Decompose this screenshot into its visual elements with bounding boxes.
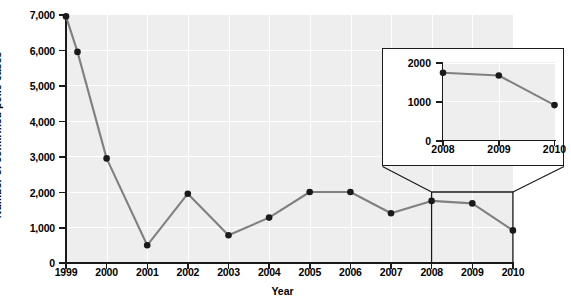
x-tick-label-2000: 2000 (85, 266, 129, 278)
gridline-y-1000 (66, 227, 513, 228)
y-tick-label-6000: 6,000 (9, 45, 55, 57)
gridline-y-7000 (66, 14, 513, 15)
gridline-x-2000 (107, 14, 108, 263)
inset-x-tick-label-2010: 2010 (535, 143, 571, 155)
y-tick-mark-1000 (59, 227, 66, 229)
y-tick-label-1000: 1,000 (9, 222, 55, 234)
x-tick-label-2010: 2010 (491, 266, 535, 278)
x-axis-title: Year (0, 285, 565, 297)
y-tick-label-7000: 7,000 (9, 9, 55, 21)
y-tick-mark-4000 (59, 121, 66, 123)
y-tick-mark-5000 (59, 85, 66, 87)
y-tick-label-5000: 5,000 (9, 80, 55, 92)
inset-gridline-x-2009 (499, 62, 500, 140)
x-tick-label-2001: 2001 (125, 266, 169, 278)
x-tick-label-2005: 2005 (288, 266, 332, 278)
x-tick-label-2006: 2006 (328, 266, 372, 278)
gridline-x-2003 (229, 14, 230, 263)
y-tick-mark-2000 (59, 192, 66, 194)
gridline-x-2002 (188, 14, 189, 263)
inset-plot-area (443, 62, 555, 140)
callout-leader-right (513, 167, 564, 193)
y-tick-label-2000: 2,000 (9, 187, 55, 199)
x-tick-label-2002: 2002 (166, 266, 210, 278)
inset-gridline-x-2010 (555, 62, 556, 140)
inset-magnified-chart: 0 1000 2000 2008 2009 2010 (382, 48, 564, 166)
y-tick-mark-7000 (59, 14, 66, 16)
x-tick-label-2003: 2003 (207, 266, 251, 278)
y-tick-label-4000: 4,000 (9, 116, 55, 128)
gridline-x-2004 (269, 14, 270, 263)
inset-y-tick-label-1000: 1000 (391, 96, 431, 108)
gridline-y-2000 (66, 192, 513, 193)
inset-x-tick-label-2009: 2009 (479, 143, 519, 155)
x-tick-label-2004: 2004 (247, 266, 291, 278)
x-tick-label-1999: 1999 (44, 266, 88, 278)
y-tick-mark-3000 (59, 156, 66, 158)
inset-y-tick-mark-1000 (436, 101, 442, 102)
x-tick-label-2009: 2009 (450, 266, 494, 278)
inset-x-tick-label-2008: 2008 (423, 143, 463, 155)
gridline-x-2001 (147, 14, 148, 263)
y-tick-mark-6000 (59, 50, 66, 52)
inset-y-tick-mark-0 (436, 140, 442, 141)
x-tick-label-2008: 2008 (410, 266, 454, 278)
x-tick-label-2007: 2007 (369, 266, 413, 278)
inset-y-tick-mark-2000 (436, 62, 442, 63)
gridline-x-2006 (351, 14, 352, 263)
gridline-x-2005 (310, 14, 311, 263)
y-tick-label-3000: 3,000 (9, 151, 55, 163)
inset-y-tick-label-2000: 2000 (391, 57, 431, 69)
inset-y-axis-line (442, 62, 443, 141)
x-axis-line (65, 262, 514, 264)
y-axis-title: Number of confirmed polio cases (0, 52, 3, 218)
